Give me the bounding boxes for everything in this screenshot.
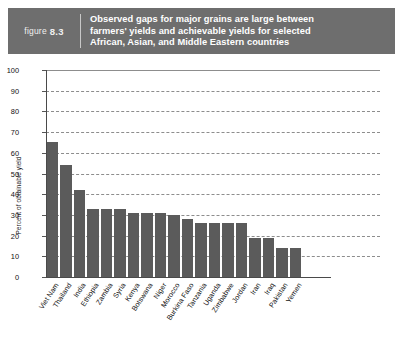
figure-title-line-1: Observed gaps for major grains are large… [90, 14, 387, 26]
y-axis-tick-label: 10 [0, 252, 19, 261]
figure-title-line-2: farmers' yields and achievable yields fo… [90, 26, 387, 38]
y-axis-tick-label: 90 [0, 86, 19, 95]
x-axis-label-slot: Yemen [290, 279, 301, 341]
bar[interactable] [290, 248, 301, 277]
bar[interactable] [249, 238, 260, 277]
y-axis-tick-label: 20 [0, 231, 19, 240]
bar[interactable] [236, 223, 247, 277]
x-axis-label-slot: Zimbabwe [222, 279, 233, 341]
bar[interactable] [74, 190, 85, 277]
y-axis-tick-label: 80 [0, 107, 19, 116]
figure-label: figure 8.3 [8, 8, 80, 54]
bar-series [47, 70, 301, 277]
bar[interactable] [276, 248, 287, 277]
bar[interactable] [209, 223, 220, 277]
y-axis-tick-label: 0 [0, 273, 19, 282]
x-axis-label-slot: Pakistan [276, 279, 287, 341]
x-axis-label-slot: Viet Nam [47, 279, 58, 341]
chart: Percent of obtainable yield 100908070605… [0, 56, 403, 342]
y-axis-tick-label: 60 [0, 148, 19, 157]
bar[interactable] [128, 213, 139, 277]
figure-number: 8.3 [50, 26, 64, 37]
bar[interactable] [114, 209, 125, 277]
x-axis-line [46, 277, 331, 278]
y-axis-tick-label: 50 [0, 169, 19, 178]
x-axis-labels: Viet NamThailandIndiaEthiopiaZambiaSyria… [47, 279, 387, 341]
x-axis-label-slot: Iran [249, 279, 260, 341]
bar[interactable] [47, 142, 58, 277]
bar[interactable] [155, 213, 166, 277]
figure-title: Observed gaps for major grains are large… [81, 8, 395, 54]
x-axis-label-slot: Niger [155, 279, 166, 341]
bar[interactable] [60, 165, 71, 277]
bar[interactable] [182, 219, 193, 277]
plot-area: 1009080706050403020100 [46, 70, 380, 277]
x-axis-label-slot: Jordan [236, 279, 247, 341]
figure-header: figure 8.3 Observed gaps for major grain… [8, 8, 395, 54]
bar[interactable] [87, 209, 98, 277]
y-axis-tick-label: 30 [0, 210, 19, 219]
x-axis-tick-label: Iran [248, 281, 262, 296]
bar[interactable] [168, 215, 179, 277]
figure-title-line-3: African, Asian, and Middle Eastern count… [90, 37, 387, 49]
x-axis-label-slot: Zambia [101, 279, 112, 341]
figure-word: figure [24, 26, 46, 36]
x-axis-label-slot: Tanzania [195, 279, 206, 341]
x-axis-label-slot: Ethiopia [87, 279, 98, 341]
y-axis-tick-label: 70 [0, 128, 19, 137]
bar[interactable] [222, 223, 233, 277]
y-axis-tick-label: 40 [0, 190, 19, 199]
bar[interactable] [263, 238, 274, 277]
x-axis-label-slot: Thailand [60, 279, 71, 341]
x-axis-label-slot: India [74, 279, 85, 341]
bar[interactable] [195, 223, 206, 277]
bar[interactable] [101, 209, 112, 277]
y-axis-tick-label: 100 [0, 66, 19, 75]
bar[interactable] [141, 213, 152, 277]
x-axis-label-slot: Iraq [263, 279, 274, 341]
x-axis-label-slot: Botswana [141, 279, 152, 341]
x-axis-label-slot: Syria [114, 279, 125, 341]
